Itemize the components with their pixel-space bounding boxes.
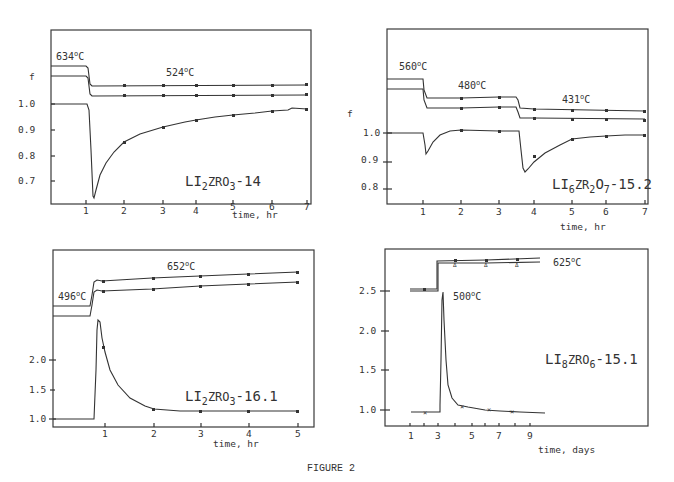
series-markers [123,83,308,144]
series-f [53,320,298,419]
x-tick-label: 7 [304,201,310,212]
figure-canvas: f 1.0 0.9 0.8 0.7 1 2 3 4 5 6 7 time, hr… [0,0,674,482]
y-axis-label: f [347,108,353,119]
x-tick-label: 2 [121,205,127,216]
y-tick-label: 0.7 [18,175,35,186]
temperature-annotation: 652oC [167,260,195,272]
temperature-annotation: 496oC [58,290,86,302]
series-f [411,292,545,413]
x-tick-label: 4 [193,205,199,216]
x-tick-label: 1 [83,205,89,216]
y-tick-label: 1.0 [363,127,380,138]
series-temp-lower [410,262,540,291]
x-tick-label: 3 [160,205,166,216]
x-axis-label: time, hr [232,209,278,220]
svg-text:Δ: Δ [453,261,457,268]
panel-li6zr2o7-15-2: f 1.0 0.9 0.8 1 2 3 4 5 6 7 time, hr 560… [347,29,652,232]
sample-label: LI2ZRO3-16.1 [185,388,278,407]
plot-frame [51,30,311,204]
x-tick-label: 9 [527,430,533,441]
plot-frame [387,29,648,204]
plot-frame [385,249,648,426]
x-tick-label: 3 [435,430,441,441]
x-tick-label: 3 [198,428,204,439]
panel-li2zro3-16-1: 2.0 1.5 1.0 1 2 3 4 5 time, hr 496oC 652… [29,250,314,449]
y-tick-label: 1.5 [29,384,46,395]
y-axis-label: f [29,71,35,82]
x-tick-label: 3 [496,206,502,217]
x-tick-label: 7 [496,430,502,441]
series-temp-upper [53,272,298,306]
y-tick-label: 0.8 [361,181,378,192]
sample-label: LI6ZR2O7-15.2 [552,176,652,195]
x-tick-label: 7 [642,206,648,217]
svg-text:×: × [487,406,491,414]
x-tick-label: 5 [295,428,301,439]
y-tick-label: 1.0 [29,413,46,424]
panel-li8zro6-15-1: 2.5 2.0 1.5 1.0 1 3 5 7 9 time, days 500… [359,249,648,455]
temperature-annotation: 560oC [399,60,427,72]
y-tick-label: 0.9 [18,124,35,135]
y-tick-label: 0.9 [361,154,378,165]
x-tick-label: 1 [408,430,414,441]
x-axis-ticks [105,423,298,427]
y-tick-label: 1.0 [18,98,35,109]
y-tick-label: 2.5 [359,285,376,296]
y-tick-label: 1.5 [359,364,376,375]
series-temp-lower [53,282,298,316]
y-tick-label: 2.0 [29,354,46,365]
x-tick-label: 1 [102,428,108,439]
x-tick-label: 5 [469,430,475,441]
series-temp-upper [387,79,645,111]
y-tick-label: 2.0 [359,325,376,336]
svg-text:Δ: Δ [484,261,488,268]
svg-text:×: × [460,403,464,411]
svg-text:×: × [510,408,514,416]
x-tick-label: 6 [603,206,609,217]
x-axis-label: time, hr [560,221,606,232]
x-tick-label: 5 [569,206,575,217]
y-tick-label: 0.8 [18,150,35,161]
x-axis-label: time, days [538,444,595,455]
x-tick-label: 2 [458,206,464,217]
x-tick-label: 2 [151,428,157,439]
temperature-annotation: 625oC [553,256,581,268]
svg-text:Δ: Δ [515,261,519,268]
sample-label: LI2ZRO3-14 [185,173,261,192]
temperature-annotation: 634oC [56,50,84,62]
temperature-annotation: 524oC [166,66,194,78]
series-f [51,104,307,198]
temperature-annotation: 480oC [458,79,486,91]
x-tick-label: 4 [531,206,537,217]
panel-li2zro3-14: f 1.0 0.9 0.8 0.7 1 2 3 4 5 6 7 time, hr… [18,30,311,220]
temperature-annotation: 431oC [562,93,590,105]
x-tick-label: 1 [420,206,426,217]
temperature-annotation: 500oC [453,290,481,302]
figure-caption: FIGURE 2 [307,463,355,474]
sample-label: LI8ZRO6-15.1 [545,351,638,370]
svg-text:×: × [423,409,427,417]
y-tick-label: 1.0 [359,404,376,415]
x-axis-ticks [423,200,645,204]
x-axis-label: time, hr [213,438,259,449]
